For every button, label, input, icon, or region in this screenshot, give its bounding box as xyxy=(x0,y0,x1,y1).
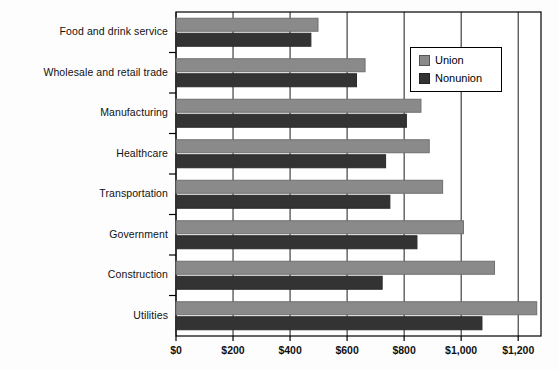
category-label: Healthcare xyxy=(116,147,168,159)
bar-nonunion xyxy=(176,276,382,289)
category-label-wrap: Utilities xyxy=(0,309,168,323)
category-label-wrap: Construction xyxy=(0,268,168,282)
category-label: Food and drink service xyxy=(60,25,168,37)
legend-item-union: Union xyxy=(419,54,464,66)
legend-label-union: Union xyxy=(435,54,464,66)
bar-union xyxy=(176,221,463,234)
category-label-wrap: Government xyxy=(0,228,168,242)
category-label: Construction xyxy=(108,268,168,280)
bar-nonunion xyxy=(176,155,386,168)
category-label: Government xyxy=(109,228,168,240)
x-axis-tick-label: $1,200 xyxy=(478,344,558,356)
bar-union xyxy=(176,18,318,31)
bar-nonunion xyxy=(176,114,406,127)
bar-union xyxy=(176,140,429,153)
category-label: Manufacturing xyxy=(100,106,168,118)
bar-union xyxy=(176,302,537,315)
category-label: Wholesale and retail trade xyxy=(43,66,168,78)
bar-union xyxy=(176,261,495,274)
bar-nonunion xyxy=(176,195,390,208)
bar-union xyxy=(176,180,443,193)
legend-label-nonunion: Nonunion xyxy=(435,72,482,84)
legend-item-nonunion: Nonunion xyxy=(419,72,482,84)
bar-chart: Food and drink serviceWholesale and reta… xyxy=(0,0,558,370)
category-label: Utilities xyxy=(133,309,168,321)
category-label-wrap: Transportation xyxy=(0,187,168,201)
bar-nonunion xyxy=(176,33,311,46)
bar-union xyxy=(176,59,365,72)
legend-swatch-nonunion-icon xyxy=(419,73,430,84)
legend-swatch-union-icon xyxy=(419,55,430,66)
category-label-wrap: Food and drink service xyxy=(0,25,168,39)
bar-nonunion xyxy=(176,317,482,330)
chart-legend: Union Nonunion xyxy=(410,47,502,92)
bar-nonunion xyxy=(176,236,417,249)
category-label-wrap: Manufacturing xyxy=(0,106,168,120)
bar-union xyxy=(176,99,421,112)
bar-nonunion xyxy=(176,74,357,87)
category-label-wrap: Healthcare xyxy=(0,147,168,161)
category-label: Transportation xyxy=(99,187,168,199)
category-label-wrap: Wholesale and retail trade xyxy=(0,66,168,80)
